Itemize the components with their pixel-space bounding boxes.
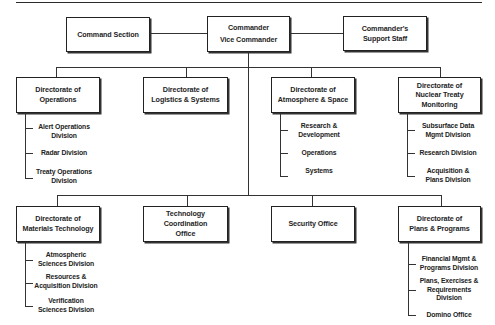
tick (25, 153, 33, 154)
box-label: Directorate of (35, 214, 80, 224)
tick (25, 128, 33, 129)
sub-label: Verification (33, 297, 99, 306)
box-label: Atmosphere & Space (278, 95, 349, 105)
sub-label: Atmospheric (33, 251, 99, 260)
vice-commander-label: Vice Commander (220, 35, 277, 45)
subsurface-data-division: Subsurface Data Mgmt Division (413, 122, 483, 139)
box-label: Technology Coordination (144, 209, 227, 229)
sub-spine (407, 113, 408, 176)
tick (280, 130, 288, 131)
support-staff-box: Commander's Support Staff (343, 16, 427, 51)
dir-atmosphere-box: Directorate of Atmosphere & Space (271, 77, 355, 113)
sub-label: Financial Mgmt & (414, 255, 484, 264)
command-section-label: Command Section (77, 30, 139, 40)
resources-acquisition-division: Resources & Acquisition Division (33, 273, 99, 290)
sub-label: Subsurface Data (413, 122, 483, 131)
tick (25, 306, 33, 307)
support-staff-label-2: Support Staff (363, 34, 407, 44)
plans-exercises-division: Plans, Exercises & Requirements Division (414, 277, 484, 303)
sub-label: Plans Division (413, 176, 483, 185)
box-label: Monitoring (421, 100, 457, 110)
drop (186, 67, 187, 77)
box-label: Nuclear Treaty (415, 90, 463, 100)
sub-label: Development (288, 131, 350, 140)
tick (280, 153, 288, 154)
sub-label: Operations (288, 149, 350, 158)
box-label: Plans & Programs (409, 224, 469, 234)
sub-spine (25, 242, 26, 306)
sub-label: Division (33, 132, 95, 141)
tick (280, 176, 288, 177)
sub-label: Mgmt Division (413, 131, 483, 140)
box-label: Security Office (288, 219, 337, 229)
dir-nuclear-box: Directorate of Nuclear Treaty Monitoring (398, 77, 481, 113)
dir-operations-box: Directorate of Operations (16, 77, 100, 113)
sub-label: Alert Operations (33, 123, 95, 132)
domino-office: Domino Office (414, 311, 484, 320)
acquisition-plans-division: Acquisition & Plans Division (413, 167, 483, 184)
spine (248, 52, 249, 195)
tick (25, 260, 33, 261)
dir-logistics-box: Directorate of Logistics & Systems (143, 77, 228, 113)
box-label: Logistics & Systems (151, 95, 219, 105)
sub-label: Requirements (414, 286, 484, 295)
sub-label: Acquisition & (413, 167, 483, 176)
box-label: Directorate of (290, 85, 335, 95)
security-office-box: Security Office (271, 206, 355, 242)
sub-spine (280, 113, 281, 176)
sub-label: Resources & (33, 273, 99, 282)
sub-label: Radar Division (33, 149, 95, 158)
sub-label: Domino Office (414, 311, 484, 320)
commander-label: Commander (228, 23, 269, 33)
dir-materials-box: Directorate of Materials Technology (16, 206, 100, 242)
atmos-operations: Operations (288, 149, 350, 158)
sub-label: Acquisition Division (33, 282, 99, 291)
verification-sciences-division: Verification Sciences Division (33, 297, 99, 314)
support-staff-label-1: Commander's (362, 24, 409, 34)
sub-label: Research Division (413, 149, 483, 158)
research-development: Research & Development (288, 122, 350, 139)
connector (290, 33, 343, 34)
atmospheric-sciences-division: Atmospheric Sciences Division (33, 251, 99, 268)
alert-ops-division: Alert Operations Division (33, 123, 95, 140)
dir-plans-box: Directorate of Plans & Programs (398, 206, 481, 242)
tick (25, 178, 33, 179)
tick (25, 283, 33, 284)
sub-label: Plans, Exercises & (414, 277, 484, 286)
sub-label: Division (414, 294, 484, 303)
drop (312, 195, 313, 206)
treaty-ops-division: Treaty Operations Division (33, 168, 95, 185)
sub-label: Research & (288, 122, 350, 131)
sub-label: Sciences Division (33, 306, 99, 315)
sub-spine (25, 113, 26, 178)
atmos-systems: Systems (288, 167, 350, 176)
row1-bus (56, 67, 441, 68)
sub-label: Sciences Division (33, 260, 99, 269)
box-label: Directorate of (417, 81, 462, 91)
drop (187, 195, 188, 206)
radar-division: Radar Division (33, 149, 95, 158)
sub-spine (408, 242, 409, 315)
box-label: Directorate of (35, 85, 80, 95)
header-rule (16, 2, 482, 3)
sub-label: Programs Division (414, 264, 484, 273)
nuclear-research-division: Research Division (413, 149, 483, 158)
sub-label: Treaty Operations (33, 168, 95, 177)
drop (440, 67, 441, 77)
box-label: Operations (40, 95, 77, 105)
box-label: Materials Technology (23, 224, 94, 234)
drop (311, 67, 312, 77)
connector (150, 33, 207, 34)
command-section-box: Command Section (66, 17, 150, 52)
sub-label: Division (33, 177, 95, 186)
commander-box: Commander Vice Commander (207, 16, 290, 52)
drop (56, 67, 57, 77)
tech-coordination-box: Technology Coordination Office (143, 206, 228, 242)
financial-mgmt-division: Financial Mgmt & Programs Division (414, 255, 484, 272)
sub-label: Systems (288, 167, 350, 176)
box-label: Directorate of (417, 214, 462, 224)
drop (57, 195, 58, 206)
row2-bus (57, 195, 441, 196)
box-label: Directorate of (163, 85, 208, 95)
box-label: Office (176, 229, 196, 239)
